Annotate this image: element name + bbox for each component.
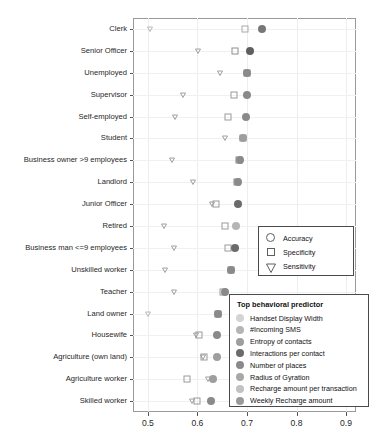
marker-sensitivity — [171, 244, 178, 251]
gridline-horizontal — [133, 182, 356, 183]
marker-accuracy — [243, 69, 251, 77]
gridline-vertical-0.6 — [197, 18, 198, 412]
y-axis-tick — [130, 314, 133, 315]
marker-sensitivity — [221, 135, 228, 142]
y-axis-label: Agriculture (own land) — [53, 353, 127, 361]
marker-specificity — [183, 376, 190, 383]
y-axis-label: Retired — [103, 222, 127, 230]
x-axis-tick — [197, 412, 198, 416]
gridline-horizontal — [133, 160, 356, 161]
marker-accuracy — [209, 375, 217, 383]
y-axis-tick — [130, 73, 133, 74]
shape-legend-label: Accuracy — [283, 234, 313, 243]
marker-accuracy — [242, 113, 250, 121]
color-legend-label: #Incoming SMS — [250, 325, 301, 334]
marker-specificity — [213, 201, 220, 208]
x-axis-label: 0.6 — [182, 418, 212, 428]
shape-legend-entry: Specificity — [265, 246, 315, 258]
marker-specificity — [242, 25, 249, 32]
y-axis-tick — [130, 292, 133, 293]
marker-specificity — [201, 354, 208, 361]
marker-sensitivity — [147, 25, 154, 32]
color-legend-label: Radius of Gyration — [250, 373, 310, 382]
color-legend-entry: Interactions per contact — [236, 347, 325, 359]
color-legend-label: Weekly Recharge amount — [250, 396, 333, 405]
marker-sensitivity — [144, 310, 151, 317]
y-axis-label: Skilled worker — [80, 397, 127, 405]
y-axis-tick — [130, 270, 133, 271]
color-swatch-icon — [236, 349, 244, 357]
marker-sensitivity — [190, 179, 197, 186]
marker-accuracy — [243, 91, 251, 99]
y-axis-tick — [130, 226, 133, 227]
marker-accuracy — [232, 222, 240, 230]
color-swatch-icon — [236, 385, 244, 393]
y-axis-label: Student — [101, 134, 127, 142]
color-legend-entry: Entropy of contacts — [236, 336, 312, 348]
gridline-horizontal — [133, 204, 356, 205]
color-legend-label: Entropy of contacts — [250, 337, 312, 346]
y-axis-tick — [130, 160, 133, 161]
shape-legend-label: Sensitivity — [283, 262, 315, 271]
y-axis-label: Teacher — [100, 288, 127, 296]
marker-accuracy — [213, 353, 221, 361]
circle-icon — [265, 232, 277, 244]
marker-accuracy — [234, 178, 242, 186]
y-axis-tick — [130, 51, 133, 52]
y-axis-label: Unemployed — [84, 69, 127, 77]
color-legend-label: Number of places — [250, 361, 306, 370]
y-axis-label: Housewife — [92, 331, 127, 339]
marker-accuracy — [227, 266, 235, 274]
x-axis-label: 0.7 — [232, 418, 262, 428]
marker-sensitivity — [179, 91, 186, 98]
y-axis-label: Agriculture worker — [66, 375, 127, 383]
shape-legend-entry: Accuracy — [265, 232, 313, 244]
gridline-vertical-0.5 — [148, 18, 149, 412]
x-axis-tick — [247, 412, 248, 416]
gridline-horizontal — [133, 51, 356, 52]
color-legend-entry: Recharge amount per transaction — [236, 383, 357, 395]
y-axis-tick — [130, 29, 133, 30]
marker-accuracy — [213, 331, 221, 339]
marker-sensitivity — [194, 47, 201, 54]
y-axis-tick — [130, 335, 133, 336]
marker-accuracy — [207, 397, 215, 405]
color-legend-entry: Number of places — [236, 359, 306, 371]
shape-legend: AccuracySpecificitySensitivity — [258, 226, 354, 276]
color-legend: Top behavioral predictor Handset Display… — [229, 294, 369, 407]
y-axis-label: Junior Officer — [82, 200, 127, 208]
y-axis-tick — [130, 138, 133, 139]
marker-accuracy — [239, 134, 247, 142]
marker-accuracy — [236, 156, 244, 164]
marker-accuracy — [246, 47, 254, 55]
marker-accuracy — [231, 244, 239, 252]
marker-sensitivity — [168, 157, 175, 164]
dot-chart: ClerkSenior OfficerUnemployedSupervisorS… — [0, 0, 372, 446]
y-axis-tick — [130, 401, 133, 402]
y-axis-tick — [130, 379, 133, 380]
marker-sensitivity — [170, 288, 177, 295]
marker-specificity — [231, 91, 238, 98]
y-axis-tick — [130, 204, 133, 205]
color-legend-title: Top behavioral predictor — [237, 300, 323, 309]
x-axis-tick — [346, 412, 347, 416]
y-axis-label: Business owner >9 employees — [24, 156, 127, 164]
square-icon — [265, 246, 277, 258]
color-legend-entry: Weekly Recharge amount — [236, 395, 333, 407]
color-legend-label: Handset Display Width — [250, 314, 323, 323]
marker-specificity — [225, 113, 232, 120]
y-axis-tick — [130, 95, 133, 96]
y-axis-label: Supervisor — [91, 91, 127, 99]
x-axis-tick — [297, 412, 298, 416]
marker-accuracy — [214, 310, 222, 318]
triangle-icon — [265, 260, 277, 272]
color-swatch-icon — [236, 361, 244, 369]
y-axis-tick — [130, 182, 133, 183]
marker-sensitivity — [160, 222, 167, 229]
x-axis-label: 0.5 — [133, 418, 163, 428]
y-axis-label: Clerk — [109, 25, 127, 33]
marker-specificity — [232, 47, 239, 54]
color-legend-entry: Radius of Gyration — [236, 371, 310, 383]
marker-accuracy — [221, 288, 229, 296]
color-swatch-icon — [236, 326, 244, 334]
